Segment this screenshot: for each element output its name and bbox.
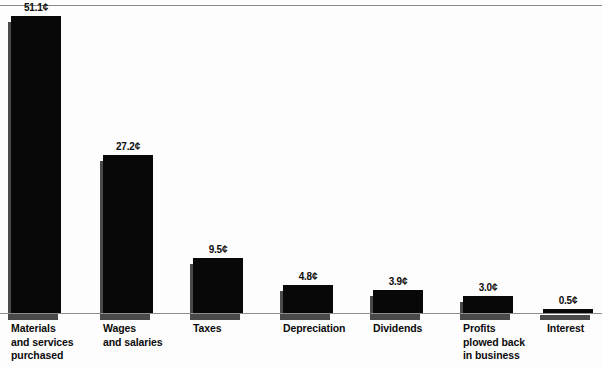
bar (463, 296, 513, 313)
bar (373, 290, 423, 313)
baseline-axis (0, 313, 602, 314)
bar-chart: 51.1¢Materials and services purchased27.… (0, 0, 602, 367)
bar (283, 285, 333, 313)
bar-category-label: Interest (547, 322, 584, 336)
bar-category-label: Taxes (193, 322, 222, 336)
bar-value-label: 4.8¢ (268, 271, 348, 282)
bar-category-label: Wages and salaries (103, 322, 163, 349)
bar-value-label: 3.0¢ (448, 282, 528, 293)
bar-value-label: 9.5¢ (178, 244, 258, 255)
bar (103, 155, 153, 313)
bar (193, 258, 243, 313)
bar-value-label: 0.5¢ (528, 295, 602, 306)
bar (11, 16, 61, 313)
bar-value-label: 51.1¢ (0, 2, 76, 13)
bar-category-label: Materials and services purchased (11, 322, 73, 363)
plot-area: 51.1¢Materials and services purchased27.… (0, 0, 602, 367)
bar-category-label: Depreciation (283, 322, 345, 336)
bar-value-label: 3.9¢ (358, 276, 438, 287)
bar-value-label: 27.2¢ (88, 141, 168, 152)
bar-shadow (540, 315, 590, 320)
bar-category-label: Profits plowed back in business (463, 322, 525, 363)
bar-category-label: Dividends (373, 322, 422, 336)
